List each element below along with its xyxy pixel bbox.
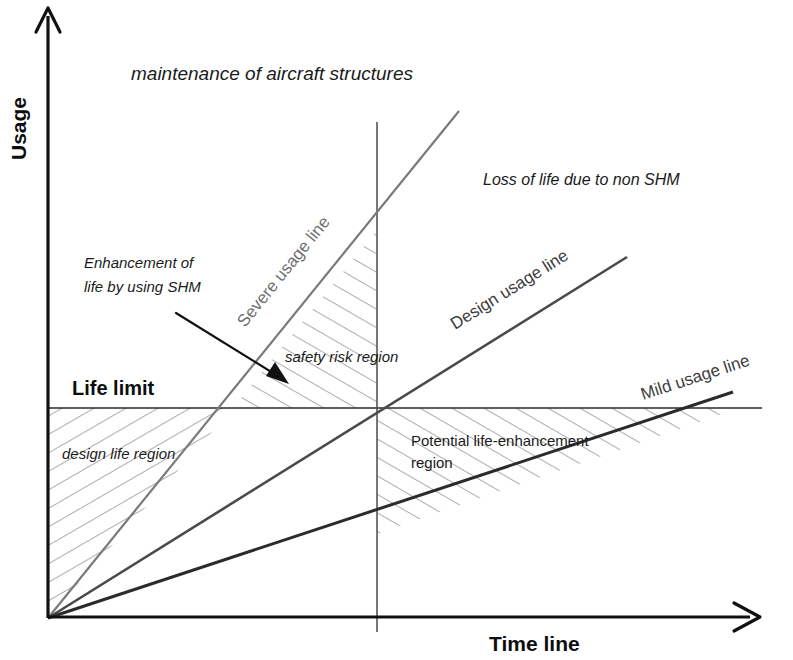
life-limit-label: Life limit <box>72 377 155 399</box>
label-design-usage-line: Design usage line <box>447 246 572 334</box>
annotation-enhancement-line2: life by using SHM <box>84 278 201 295</box>
enhancement-callout-arrow <box>176 313 289 384</box>
axis-group <box>36 8 760 631</box>
chart-title: maintenance of aircraft structures <box>131 63 413 84</box>
diagram-canvas: maintenance of aircraft structures Usage… <box>0 0 793 660</box>
annotation-enhancement-line1: Enhancement of <box>84 254 195 271</box>
x-axis-label: Time line <box>489 632 580 655</box>
label-mild-usage-line: Mild usage line <box>638 351 752 404</box>
region-label-potential-line1: Potential life-enhancement <box>411 432 589 449</box>
region-label-safety-risk: safety risk region <box>285 348 398 365</box>
region-label-design-life: design life region <box>62 445 175 462</box>
region-potential-life-enhancement-fill <box>377 408 740 534</box>
y-axis-label: Usage <box>7 97 30 160</box>
region-label-potential-line2: region <box>411 454 453 471</box>
aircraft-maintenance-chart: maintenance of aircraft structures Usage… <box>0 0 793 660</box>
annotation-loss-of-life: Loss of life due to non SHM <box>483 171 680 188</box>
